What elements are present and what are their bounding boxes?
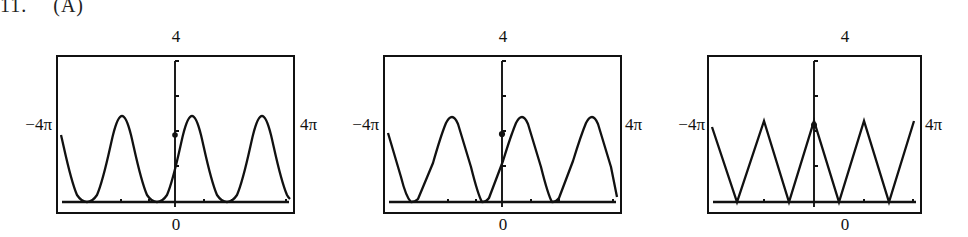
- panel-3-top-label: 4: [815, 28, 875, 45]
- panel-3-right-label: 4π: [925, 116, 965, 133]
- panel-3: 4 −4π 4π 0: [660, 0, 968, 237]
- panel-1-plot: [58, 55, 293, 210]
- panel-2-plot: [385, 55, 620, 210]
- panel-3-origin-marker: [811, 122, 817, 128]
- panel-2-origin-marker: [499, 131, 505, 137]
- panel-1-origin-marker: [172, 132, 178, 138]
- panel-1-bottom-label: 0: [146, 216, 206, 233]
- panel-3-curve: [712, 121, 914, 202]
- panel-1-left-label: −4π: [0, 116, 52, 133]
- panel-2-top-label: 4: [473, 28, 533, 45]
- panel-3-plot: [709, 55, 920, 210]
- figure-panels: 4 −4π 4π 0: [0, 0, 968, 237]
- panel-2-bottom-label: 0: [473, 216, 533, 233]
- panel-3-bottom-label: 0: [815, 216, 875, 233]
- panel-2: 4 −4π 4π 0: [330, 0, 660, 237]
- panel-2-left-label: −4π: [327, 116, 379, 133]
- panel-3-left-label: −4π: [653, 116, 705, 133]
- panel-1: 4 −4π 4π 0: [0, 0, 330, 237]
- panel-1-top-label: 4: [146, 28, 206, 45]
